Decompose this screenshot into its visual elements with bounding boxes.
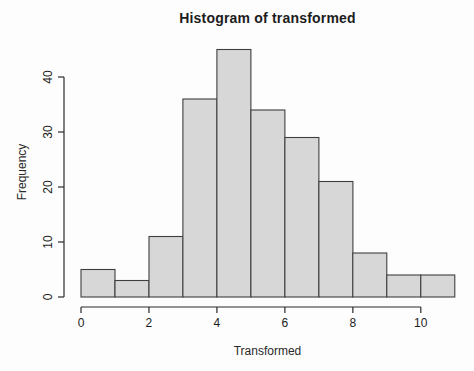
histogram-bar: [217, 50, 251, 298]
histogram-bar: [251, 110, 285, 297]
y-tick-label: 20: [41, 180, 55, 194]
y-tick-label: 30: [41, 125, 55, 139]
histogram-bar: [115, 281, 149, 298]
histogram-bar: [285, 138, 319, 298]
plot-area: 0246810010203040: [0, 0, 474, 371]
x-tick-label: 8: [349, 316, 356, 330]
histogram-bar: [353, 253, 387, 297]
histogram-bar: [81, 270, 115, 298]
x-tick-label: 10: [414, 316, 428, 330]
y-tick-label: 0: [41, 293, 55, 300]
y-tick-label: 10: [41, 235, 55, 249]
x-tick-label: 4: [214, 316, 221, 330]
x-axis-title: Transformed: [66, 344, 469, 358]
histogram-figure: Histogram of transformed Frequency 02468…: [0, 0, 474, 371]
histogram-bar: [149, 237, 183, 298]
x-tick-label: 0: [78, 316, 85, 330]
x-tick-label: 6: [282, 316, 289, 330]
histogram-bar: [421, 275, 455, 297]
histogram-bar: [387, 275, 421, 297]
x-tick-label: 2: [146, 316, 153, 330]
y-tick-label: 40: [41, 70, 55, 84]
histogram-bar: [183, 99, 217, 297]
histogram-bar: [319, 182, 353, 298]
